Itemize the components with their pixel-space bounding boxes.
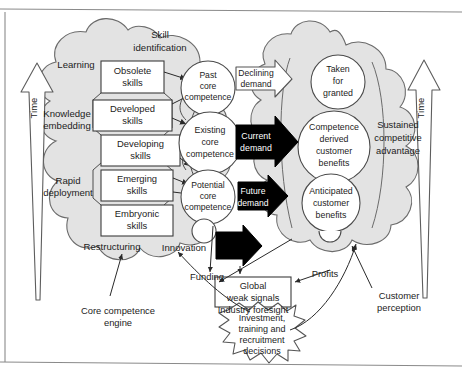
arrow-current-demand-line2: demand [240,143,272,153]
circle-cdcb-line4: benefits [319,158,350,168]
skill-box-developed-line1: Developed [110,103,155,114]
arrow-future-demand-line2: demand [237,198,268,208]
circle-existing-line1: Existing [195,125,226,135]
label-knowledge: Knowledge [43,108,90,119]
skill-box-developing-line1: Developing [117,138,164,149]
circle-cdcb-line2: derived [320,134,349,144]
skill-box-developing[interactable]: Developing skills [101,135,180,166]
circle-past-core-competence[interactable]: Past core competence [181,61,235,115]
circle-competence-derived-customer-benefits[interactable]: Competence derived customer benefits [298,111,370,183]
circle-past-line3: competence [185,92,232,102]
circle-acb-line3: benefits [316,210,347,220]
circle-taken-line3: granted [323,88,353,98]
competence-circles: Past core competence Existing core compe… [179,61,241,243]
callout-customer-perception-line1: Customer [379,290,420,301]
circle-taken-line2: for [333,76,343,86]
skill-box-emerging-line2: skills [127,185,148,196]
circle-potential-line2: core [200,191,217,201]
connector-core-engine [110,254,122,296]
label-skill-identification-2: identification [133,42,186,53]
circle-existing-line2: core [201,137,218,147]
diagram-canvas: Time Time Skill identification Learning … [0,0,462,376]
label-deployment: deployment [43,187,93,198]
skill-box-developing-line2: skills [130,150,151,161]
callout-profits: Profits [312,268,339,279]
starburst-line4: decisions [243,346,281,356]
skill-box-developed[interactable]: Developed skills [93,100,172,131]
circle-taken-for-granted[interactable]: Taken for granted [311,55,365,109]
arrow-current-demand-line1: Current [241,131,271,141]
arrow-declining-demand-line1: Declining [238,68,274,78]
circle-acb-line1: Anticipated [309,186,353,196]
skill-box-embryonic-line1: Embryonic [115,208,160,219]
skill-box-developed-line2: skills [122,115,143,126]
skill-box-obsolete[interactable]: Obsolete skills [101,61,164,93]
skill-box-embryonic[interactable]: Embryonic skills [101,205,173,236]
right-cloud-labels: Sustained competitive advantage [374,119,421,156]
label-skill-identification-1: Skill [151,29,169,40]
skill-box-embryonic-line2: skills [127,220,148,231]
skill-box-obsolete-line1: Obsolete [114,65,152,76]
skill-box-emerging-line1: Emerging [117,173,157,184]
global-box-line2: weak signals [226,293,280,303]
circle-cdcb-line1: Competence [309,122,359,132]
callout-industry-foresight: Industry foresight [218,305,289,315]
starburst-line3: recruitment [239,335,285,345]
label-embedding: embedding [43,120,90,131]
label-competitive: competitive [374,132,421,143]
connector-profits [290,244,356,330]
arrow-declining-demand-line2: demand [240,79,271,89]
skill-box-obsolete-line2: skills [122,77,143,88]
global-box-line1: Global [240,281,267,291]
time-label-left: Time [28,98,39,119]
arrow-unlabelled-demand[interactable] [216,225,262,266]
callout-core-engine-line1: Core competence [81,305,155,316]
label-restructuring: Restructuring [83,241,140,252]
callout-funding: Funding [190,271,224,282]
label-advantage: advantage [376,145,420,156]
starburst-line2: training and [238,324,285,334]
time-label-right: Time [415,98,426,119]
circle-potential-line1: Potential [191,180,225,190]
label-rapid: Rapid [55,175,80,186]
circle-acb-line2: customer [313,198,349,208]
circle-cdcb-line3: customer [316,146,352,156]
label-sustained: Sustained [377,119,419,130]
circle-potential-core-competence[interactable]: Potential core competence [181,170,235,224]
circle-past-line1: Past [199,70,217,80]
callout-customer-perception-line2: perception [377,302,421,313]
circle-existing-core-competence[interactable]: Existing core competence [179,112,241,174]
circle-taken-line1: Taken [326,64,350,74]
connector-customer-perception [352,246,372,288]
skill-box-emerging[interactable]: Emerging skills [101,170,173,201]
circle-existing-line3: competence [186,149,234,159]
global-weak-signals-box[interactable]: Global weak signals [215,277,291,307]
circle-potential-line3: competence [185,202,232,212]
callout-core-engine-line2: engine [104,317,132,328]
label-innovation: Innovation [162,242,206,253]
label-learning: Learning [57,59,94,70]
arrow-future-demand-line1: Future [241,186,266,196]
circle-past-line2: core [200,81,217,91]
circle-anticipated-customer-benefits[interactable]: Anticipated customer benefits [302,174,360,232]
